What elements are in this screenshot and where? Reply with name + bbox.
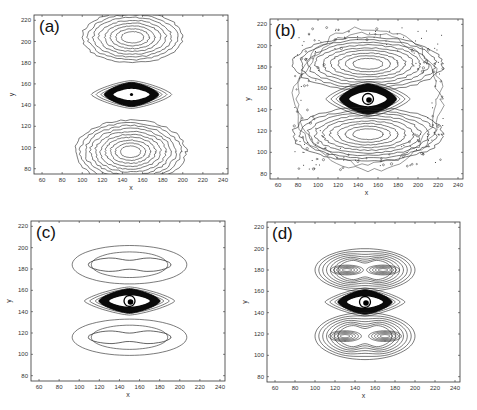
y-tick-label: 220 xyxy=(254,224,265,230)
x-tick-label: 60 xyxy=(39,177,46,183)
x-axis-label: x xyxy=(362,392,366,399)
y-axis-label: y xyxy=(244,97,252,101)
y-tick-label: 100 xyxy=(254,352,265,358)
x-tick-label: 240 xyxy=(218,177,229,183)
x-tick-label: 80 xyxy=(295,182,302,188)
y-tick-label: 100 xyxy=(257,149,268,155)
x-tick-label: 180 xyxy=(393,182,404,188)
x-tick-label: 200 xyxy=(175,384,186,390)
x-tick-label: 140 xyxy=(117,177,128,183)
y-tick-label: 220 xyxy=(21,17,32,23)
y-tick-label: 180 xyxy=(254,267,265,273)
contour-lines xyxy=(292,27,444,172)
y-tick-label: 160 xyxy=(21,81,32,87)
contour-panel-c: 6080100120140160180200220240801001201401… xyxy=(5,217,231,403)
x-tick-label: 220 xyxy=(195,384,206,390)
panel-label: (c) xyxy=(36,223,56,242)
y-tick-label: 160 xyxy=(254,288,265,294)
y-tick-label: 180 xyxy=(18,266,29,272)
y-axis-label: y xyxy=(5,299,13,303)
y-tick-label: 180 xyxy=(257,64,268,70)
y-tick-label: 80 xyxy=(260,171,267,177)
y-tick-label: 140 xyxy=(18,309,29,315)
x-tick-label: 160 xyxy=(138,177,149,183)
y-tick-label: 200 xyxy=(18,245,29,251)
x-tick-label: 80 xyxy=(59,177,66,183)
y-tick-label: 180 xyxy=(21,60,32,66)
y-tick-label: 220 xyxy=(18,223,29,229)
x-tick-label: 140 xyxy=(353,182,364,188)
contour-lines xyxy=(72,246,187,356)
panel-label: (a) xyxy=(39,17,60,36)
y-tick-label: 200 xyxy=(254,246,265,252)
x-axis-label: x xyxy=(129,184,133,191)
y-tick-label: 140 xyxy=(257,107,268,113)
x-tick-label: 100 xyxy=(77,177,88,183)
y-axis-label: y xyxy=(241,300,249,304)
panel-label: (d) xyxy=(272,224,293,243)
x-tick-label: 140 xyxy=(350,385,361,391)
y-tick-label: 140 xyxy=(254,310,265,316)
x-tick-label: 240 xyxy=(215,384,226,390)
x-tick-label: 140 xyxy=(114,384,125,390)
y-tick-label: 120 xyxy=(18,330,29,336)
x-tick-label: 240 xyxy=(453,182,464,188)
x-tick-label: 100 xyxy=(313,182,324,188)
x-tick-label: 220 xyxy=(198,177,209,183)
contour-panel-d: 6080100120140160180200220240801001201401… xyxy=(241,218,466,404)
y-tick-label: 160 xyxy=(18,287,29,293)
x-tick-label: 180 xyxy=(158,177,169,183)
x-tick-label: 100 xyxy=(310,385,321,391)
x-tick-label: 120 xyxy=(94,384,105,390)
y-tick-label: 220 xyxy=(257,21,268,27)
y-tick-label: 200 xyxy=(21,39,32,45)
y-tick-label: 200 xyxy=(257,43,268,49)
x-tick-label: 220 xyxy=(430,385,441,391)
y-tick-label: 140 xyxy=(21,102,32,108)
x-tick-label: 160 xyxy=(370,385,381,391)
y-tick-label: 120 xyxy=(254,331,265,337)
x-tick-label: 240 xyxy=(450,385,461,391)
x-tick-label: 120 xyxy=(330,385,341,391)
x-axis-label: x xyxy=(126,391,130,398)
x-tick-label: 160 xyxy=(373,182,384,188)
y-tick-label: 80 xyxy=(24,166,31,172)
x-tick-label: 220 xyxy=(433,182,444,188)
y-tick-label: 80 xyxy=(21,373,28,379)
x-tick-label: 200 xyxy=(410,385,421,391)
contour-panel-b: 6080100120140160180200220240801001201401… xyxy=(244,15,469,201)
x-tick-label: 120 xyxy=(333,182,344,188)
y-tick-label: 120 xyxy=(257,128,268,134)
panel-label: (b) xyxy=(275,21,296,40)
y-tick-label: 100 xyxy=(18,351,29,357)
x-tick-label: 160 xyxy=(135,384,146,390)
y-tick-label: 80 xyxy=(257,374,264,380)
y-tick-label: 100 xyxy=(21,145,32,151)
y-tick-label: 160 xyxy=(257,85,268,91)
contour-panel-a: 6080100120140160180200220240801001201401… xyxy=(8,11,234,196)
contour-lines xyxy=(315,249,415,360)
x-tick-label: 200 xyxy=(413,182,424,188)
x-tick-label: 80 xyxy=(56,384,63,390)
x-tick-label: 120 xyxy=(97,177,108,183)
x-tick-label: 60 xyxy=(272,385,279,391)
x-tick-label: 180 xyxy=(155,384,166,390)
x-tick-label: 60 xyxy=(275,182,282,188)
y-tick-label: 120 xyxy=(21,123,32,129)
contour-lines xyxy=(75,12,187,185)
x-tick-label: 80 xyxy=(292,385,299,391)
x-tick-label: 200 xyxy=(178,177,189,183)
x-tick-label: 180 xyxy=(390,385,401,391)
x-tick-label: 100 xyxy=(74,384,85,390)
x-axis-label: x xyxy=(365,189,369,196)
x-tick-label: 60 xyxy=(36,384,43,390)
y-axis-label: y xyxy=(8,92,16,96)
